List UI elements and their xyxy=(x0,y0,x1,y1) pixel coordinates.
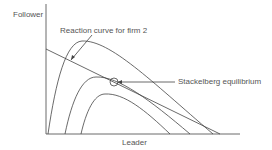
x-axis-label: Leader xyxy=(122,139,147,147)
isoprofit-curve-3 xyxy=(81,94,170,134)
reaction-curve-label: Reaction curve for firm 2 xyxy=(60,27,147,35)
isoprofit-curve-1 xyxy=(48,41,213,134)
y-axis-label: Follower xyxy=(13,11,43,19)
reaction-curve-line xyxy=(46,49,220,134)
stackelberg-diagram xyxy=(0,0,272,150)
equilibrium-label: Stackelberg equilibrium xyxy=(178,78,261,86)
reaction-curve-pointer xyxy=(71,35,92,60)
isoprofit-curve-2 xyxy=(65,77,190,134)
